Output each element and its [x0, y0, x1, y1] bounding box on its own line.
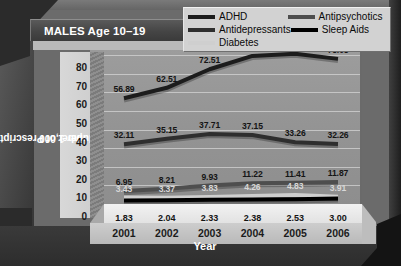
y-axis-tick-label: 80 — [76, 62, 87, 73]
data-label: 72.51 — [199, 55, 220, 65]
data-label: 3.91 — [330, 183, 346, 193]
legend-swatch-antipsychotics — [288, 15, 315, 19]
legend-item-sleep-aids: Sleep Aids — [291, 24, 387, 35]
legend-item-antipsychotics: Antipsychotics — [288, 11, 388, 22]
y-axis-tick-label: 50 — [76, 118, 87, 129]
legend-label-antipsychotics: Antipsychotics — [319, 11, 383, 22]
legend-row: Diabetes — [188, 36, 387, 49]
y-axis-tick-label: 40 — [76, 136, 87, 147]
data-label: 3.37 — [159, 184, 175, 194]
legend-swatch-adhd — [188, 15, 215, 19]
legend-label-adhd: ADHD — [219, 11, 247, 22]
floor-top — [104, 204, 362, 223]
data-label: 9.93 — [201, 172, 217, 182]
legend-label-sleep-aids: Sleep Aids — [322, 24, 369, 35]
legend-label-diabetes: Diabetes — [219, 37, 258, 48]
y-axis-ticks: 80706050403020100 — [60, 52, 90, 218]
y-axis-title: Number of Prescriptionsper 1,000 — [38, 58, 60, 218]
data-label: 37.15 — [242, 121, 263, 131]
legend-swatch-sleep-aids — [291, 28, 318, 32]
data-label: 11.41 — [285, 169, 306, 179]
data-label: 37.71 — [199, 120, 220, 130]
chart-legend: ADHD Antipsychotics Antidepressants Slee… — [183, 7, 391, 52]
sleep-aids-data-label: 2.38 — [244, 213, 262, 223]
sleep-aids-data-label: 3.00 — [329, 213, 347, 223]
data-label: 32.26 — [327, 130, 348, 140]
data-label: 56.89 — [113, 84, 134, 94]
data-label: 3.43 — [116, 184, 132, 194]
sleep-aids-data-label: 2.33 — [201, 213, 219, 223]
y-axis-tick-label: 70 — [76, 80, 87, 91]
series-lines — [104, 46, 362, 204]
plot-right-edge — [360, 46, 362, 204]
chart-title: MALES Age 10–19 — [30, 19, 188, 41]
plot-area: 56.8962.5172.5179.6780.8978.0832.1135.15… — [104, 46, 362, 204]
data-label: 4.26 — [244, 182, 260, 192]
sleep-aids-data-label: 1.83 — [115, 213, 133, 223]
floor-side — [90, 204, 105, 224]
y-axis-tick-label: 0 — [81, 211, 87, 222]
data-label: 35.15 — [156, 125, 177, 135]
data-label: 62.51 — [156, 74, 177, 84]
y-axis-tick-label: 60 — [76, 99, 87, 110]
sleep-aids-data-label: 2.53 — [286, 213, 304, 223]
data-label: 3.83 — [201, 183, 217, 193]
sleep-aids-data-label: 2.04 — [158, 213, 176, 223]
legend-item-adhd: ADHD — [188, 11, 288, 22]
data-label: 11.22 — [242, 169, 263, 179]
data-label: 33.26 — [285, 128, 306, 138]
legend-row: Antidepressants Sleep Aids — [188, 23, 387, 36]
legend-swatch-diabetes — [188, 41, 215, 45]
chart-title-text: MALES Age 10–19 — [44, 25, 145, 37]
legend-item-diabetes: Diabetes — [188, 37, 290, 48]
y-axis-tick-label: 10 — [76, 192, 87, 203]
x-axis-title: Year — [34, 236, 376, 256]
legend-row: ADHD Antipsychotics — [188, 10, 387, 23]
y-axis-tick-label: 30 — [76, 155, 87, 166]
legend-swatch-antidepressants — [188, 28, 215, 32]
data-label: 11.87 — [328, 168, 349, 178]
legend-item-antidepressants: Antidepressants — [188, 24, 291, 35]
data-label: 4.83 — [287, 181, 303, 191]
series-line-sleep-aids — [124, 198, 338, 200]
chart-frame: MALES Age 10–19 ADHD Antipsychotics Anti… — [0, 0, 401, 266]
x-axis-title-text: Year — [193, 240, 216, 252]
plot-wall-left — [90, 52, 104, 218]
chart-title-shadow — [33, 41, 191, 50]
y-axis-tick-label: 20 — [76, 173, 87, 184]
data-label: 32.11 — [114, 130, 135, 140]
legend-label-antidepressants: Antidepressants — [219, 24, 291, 35]
